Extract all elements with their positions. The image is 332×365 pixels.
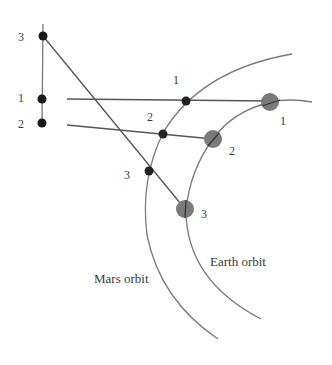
sky-label-2: 2 — [18, 117, 24, 131]
mars-label-1: 1 — [173, 73, 179, 87]
sky-position-2 — [38, 119, 47, 128]
earth-label-1: 1 — [280, 114, 286, 128]
mars-position-2 — [159, 130, 168, 139]
sky-position-1 — [38, 95, 47, 104]
earth-orbit-label: Earth orbit — [210, 254, 266, 269]
earth-position-2 — [204, 130, 222, 148]
mars-position-3 — [145, 167, 154, 176]
sky-position-3 — [39, 32, 48, 41]
mars-orbit-label: Mars orbit — [94, 271, 149, 286]
sight-line-3 — [43, 36, 185, 209]
retrograde-diagram: 3 1 2 1 2 3 1 2 3 Mars orbit Earth orbit — [0, 0, 332, 365]
sight-line-1 — [67, 99, 270, 101]
sky-label-1: 1 — [18, 91, 24, 105]
earth-position-1 — [261, 93, 279, 111]
sight-line-2 — [67, 125, 213, 139]
mars-label-3: 3 — [124, 168, 130, 182]
earth-label-3: 3 — [201, 207, 207, 221]
mars-position-1 — [182, 97, 191, 106]
earth-label-2: 2 — [229, 144, 235, 158]
mars-label-2: 2 — [147, 110, 153, 124]
sky-label-3: 3 — [18, 30, 24, 44]
